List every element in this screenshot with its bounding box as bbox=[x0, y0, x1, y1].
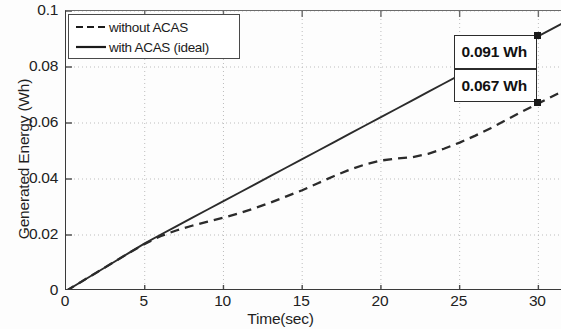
legend-solid-line-icon bbox=[74, 41, 108, 53]
legend-label: without ACAS bbox=[109, 20, 188, 35]
data-point-marker-without-acas bbox=[534, 99, 541, 106]
annotation-value-without-acas: 0.067 Wh bbox=[454, 69, 537, 103]
x-tick-label: 15 bbox=[281, 292, 321, 310]
series-line-without-acas bbox=[66, 92, 561, 290]
legend-entry-with-acas: with ACAS (ideal) bbox=[74, 37, 235, 57]
y-axis-title: Generated Energy (Wh) bbox=[15, 39, 33, 279]
legend-dashed-line-icon bbox=[74, 21, 108, 33]
data-point-marker-ideal bbox=[534, 32, 541, 39]
x-tick-label: 30 bbox=[517, 292, 557, 310]
x-tick-label: 25 bbox=[439, 292, 479, 310]
figure-canvas: 0 0.02 0.04 0.06 0.08 0.1 0 5 10 15 20 2… bbox=[0, 0, 561, 329]
legend-label: with ACAS (ideal) bbox=[109, 40, 209, 55]
legend-entry-without-acas: without ACAS bbox=[74, 17, 235, 37]
x-tick-label: 20 bbox=[360, 292, 400, 310]
x-tick-label: 5 bbox=[124, 292, 164, 310]
x-tick-label: 10 bbox=[202, 292, 242, 310]
annotation-value-ideal: 0.091 Wh bbox=[454, 35, 537, 69]
y-tick-label: 0.1 bbox=[0, 1, 58, 19]
x-axis-title: Time(sec) bbox=[0, 310, 561, 328]
x-tick-label: 0 bbox=[45, 292, 85, 310]
legend-box: without ACAS with ACAS (ideal) bbox=[68, 14, 240, 59]
